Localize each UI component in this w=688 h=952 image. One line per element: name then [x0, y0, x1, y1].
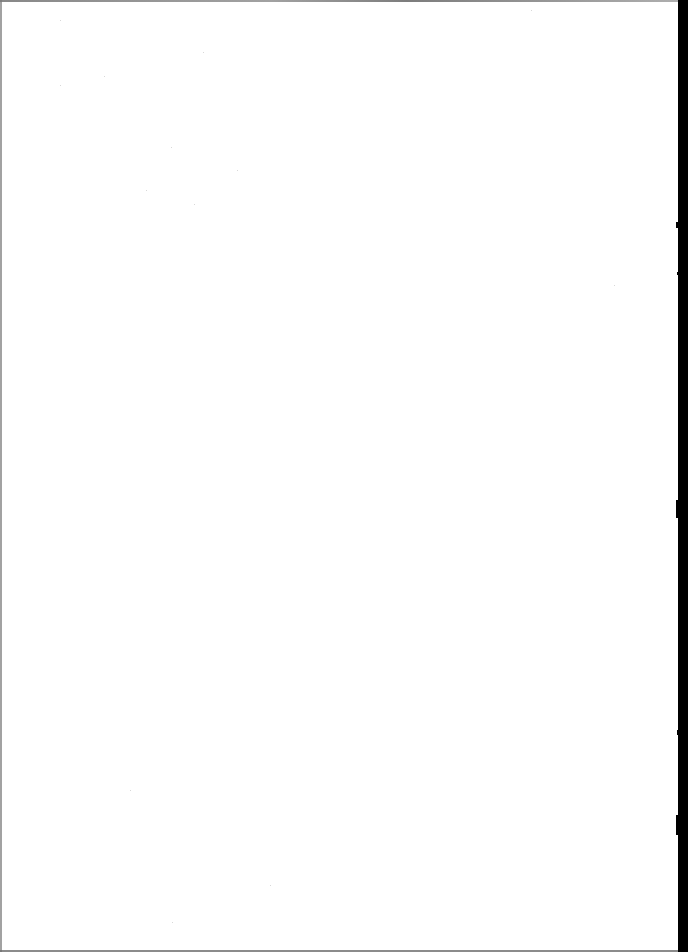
scan-edge-left: [0, 0, 2, 952]
scan-speck: [146, 190, 147, 191]
scan-speck: [531, 10, 532, 11]
scan-artifact: [676, 500, 679, 518]
scan-speck: [194, 204, 195, 205]
scan-artifact: [676, 815, 679, 835]
scan-speck: [60, 20, 61, 21]
scanned-page: [0, 0, 688, 952]
scan-artifact: [677, 730, 679, 735]
scan-edge-right-black-band: [678, 0, 688, 952]
scan-speck: [237, 170, 238, 171]
scan-speck: [203, 52, 204, 53]
scan-speck: [104, 76, 105, 77]
scan-edge-top: [0, 0, 678, 2]
scan-speck: [172, 922, 173, 923]
scan-speck: [614, 285, 615, 286]
scan-speck: [130, 790, 131, 791]
scan-speck: [60, 85, 61, 86]
scan-artifact: [677, 272, 680, 275]
scan-artifact: [676, 222, 680, 228]
scan-speck: [171, 147, 172, 148]
scan-speck: [270, 885, 271, 886]
